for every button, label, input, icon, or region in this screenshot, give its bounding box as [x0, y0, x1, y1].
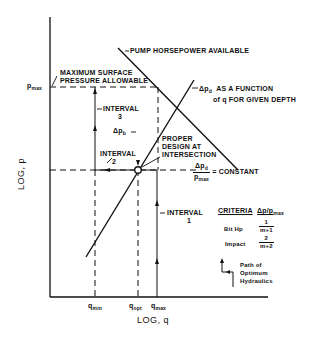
max-pressure-leader	[52, 76, 57, 86]
legend-arrow-up-icon	[220, 258, 224, 263]
criteria-ratio-header: Δp/pmax	[257, 207, 284, 217]
max-pressure-label-line2: PRESSURE ALLOWABLE	[60, 77, 148, 85]
interval1-label: INTERVAL	[167, 209, 203, 217]
proper-design-line2: DESIGN AT	[162, 143, 201, 151]
x-axis-label: LOG, q	[137, 316, 169, 324]
legend-line1: Path of	[240, 262, 262, 269]
path-legend-icon	[222, 260, 233, 287]
interval1-number: 1	[187, 217, 191, 225]
proper-design-line1: PROPER	[162, 135, 193, 143]
interval3-number: 3	[118, 113, 122, 121]
pmax-tick-label: pmax	[27, 82, 42, 92]
dpb-label: Δpb	[113, 127, 126, 137]
legend-line3: Hydraulics	[240, 278, 273, 285]
arrow-up-icon	[155, 258, 159, 264]
criteria-row-impact: Impact	[225, 241, 246, 248]
constant-ratio-label: Δpdpmax = CONSTANT	[193, 162, 259, 183]
qmax-tick-label: qmax	[151, 302, 166, 312]
qopt-tick-label: qopt	[129, 302, 142, 312]
interval2-label: INTERVAL	[100, 150, 136, 158]
criteria-row-impact-value: 2m+2	[259, 235, 274, 250]
arrow-up-icon	[155, 200, 159, 206]
max-pressure-label-line1: MAXIMUM SURFACE	[60, 69, 133, 77]
qmin-tick-label: qmin	[88, 302, 102, 312]
legend-arrow-left-icon	[226, 270, 230, 274]
criteria-row-bit-hp-value: 1m+1	[259, 219, 274, 234]
dpd-function-label: Δpd AS A FUNCTION	[199, 85, 273, 95]
interval3-label: INTERVAL	[103, 105, 139, 113]
proper-design-line3: INTERSECTION	[162, 151, 217, 159]
legend-line2: Optimum	[240, 270, 268, 277]
arrow-down-icon	[136, 160, 140, 166]
criteria-header: CRITERIA	[218, 207, 253, 215]
optimum-intersection-point	[135, 167, 142, 174]
dpd-function-label-line2: of q FOR GIVEN DEPTH	[213, 96, 296, 104]
arrow-left-icon	[104, 168, 110, 172]
y-axis-label: LOG, p	[17, 158, 25, 190]
criteria-row-bit-hp: Bit Hp	[224, 226, 243, 233]
arrow-up-icon	[93, 88, 97, 94]
pump-hp-label: PUMP HORSEPOWER AVAILABLE	[130, 47, 249, 55]
arrow-up-icon	[93, 125, 97, 131]
interval2-number: 2	[112, 158, 116, 166]
